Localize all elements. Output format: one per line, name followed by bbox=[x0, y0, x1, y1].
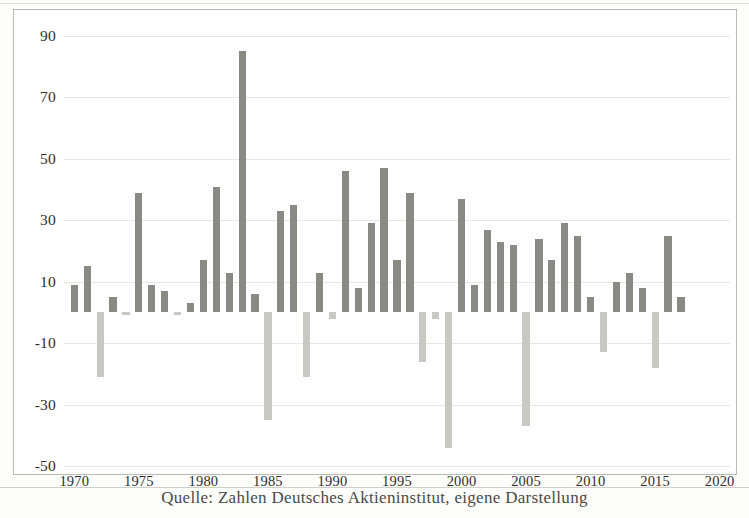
y-axis-tick-label: 90 bbox=[40, 27, 56, 45]
caption-text: Quelle: Zahlen Deutsches Aktieninstitut,… bbox=[0, 487, 749, 509]
plot-area: 9070503010-10-30-50197019751980198519901… bbox=[64, 36, 730, 466]
bar bbox=[342, 171, 349, 312]
bar bbox=[432, 312, 439, 318]
gridline-y-70 bbox=[64, 97, 730, 98]
bar bbox=[664, 236, 671, 313]
bar bbox=[174, 312, 181, 315]
bar bbox=[561, 223, 568, 312]
bar bbox=[484, 230, 491, 313]
bar bbox=[161, 291, 168, 313]
bar bbox=[368, 223, 375, 312]
bar bbox=[652, 312, 659, 367]
bar bbox=[458, 199, 465, 313]
bar bbox=[613, 282, 620, 313]
bar bbox=[600, 312, 607, 352]
bar bbox=[71, 285, 78, 313]
chart-source-caption: Quelle: Zahlen Deutsches Aktieninstitut,… bbox=[0, 487, 749, 509]
bar bbox=[574, 236, 581, 313]
y-axis-tick-label: 30 bbox=[40, 211, 56, 229]
bar bbox=[445, 312, 452, 447]
bar bbox=[316, 273, 323, 313]
bar bbox=[535, 239, 542, 313]
gridline-y-30 bbox=[64, 220, 730, 221]
bar bbox=[419, 312, 426, 361]
y-axis-tick-label: 50 bbox=[40, 150, 56, 168]
bar bbox=[148, 285, 155, 313]
chart-frame: 9070503010-10-30-50197019751980198519901… bbox=[13, 9, 737, 475]
bar bbox=[290, 205, 297, 313]
bar bbox=[200, 260, 207, 312]
bar bbox=[97, 312, 104, 377]
bar bbox=[329, 312, 336, 318]
bar bbox=[510, 245, 517, 313]
y-axis-tick-label: 10 bbox=[40, 273, 56, 291]
bar bbox=[251, 294, 258, 312]
gridline-y--10 bbox=[64, 343, 730, 344]
gridline-y--50 bbox=[64, 466, 730, 467]
bar bbox=[213, 187, 220, 313]
gridline-y-50 bbox=[64, 159, 730, 160]
bar bbox=[135, 193, 142, 313]
scan-edge-top bbox=[0, 3, 749, 4]
bar bbox=[639, 288, 646, 313]
y-axis-tick-label: -10 bbox=[35, 334, 56, 352]
bar bbox=[187, 303, 194, 312]
bar bbox=[548, 260, 555, 312]
bar bbox=[522, 312, 529, 426]
bar bbox=[626, 273, 633, 313]
bar bbox=[406, 193, 413, 313]
bar bbox=[393, 260, 400, 312]
bar bbox=[380, 168, 387, 312]
chart-page: 9070503010-10-30-50197019751980198519901… bbox=[0, 0, 749, 518]
y-axis-tick-label: -30 bbox=[35, 396, 56, 414]
bar bbox=[471, 285, 478, 313]
gridline-y--30 bbox=[64, 405, 730, 406]
bar bbox=[587, 297, 594, 312]
bar bbox=[84, 266, 91, 312]
bar bbox=[109, 297, 116, 312]
bar bbox=[277, 211, 284, 312]
bar bbox=[122, 312, 129, 315]
bar bbox=[264, 312, 271, 420]
bar bbox=[497, 242, 504, 313]
bar bbox=[226, 273, 233, 313]
bar bbox=[303, 312, 310, 377]
gridline-y-90 bbox=[64, 36, 730, 37]
bar bbox=[239, 51, 246, 312]
bar bbox=[677, 297, 684, 312]
bar bbox=[355, 288, 362, 313]
y-axis-tick-label: 70 bbox=[40, 88, 56, 106]
y-axis-tick-label: -50 bbox=[35, 457, 56, 475]
